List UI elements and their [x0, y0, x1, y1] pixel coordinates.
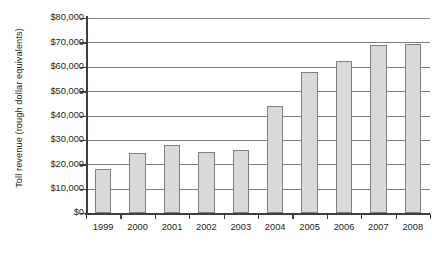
bar [129, 153, 146, 213]
plot-area [86, 18, 430, 213]
x-axis-tick-mark [86, 214, 87, 219]
bar [198, 152, 215, 213]
y-axis-line [86, 16, 88, 215]
x-axis-tick-mark [396, 214, 397, 219]
y-axis-tick-label: $70,000 [18, 38, 84, 47]
gridline [86, 18, 430, 19]
x-axis-tick-mark [189, 214, 190, 219]
y-axis-tick-label: $50,000 [18, 87, 84, 96]
x-axis-tick-mark [361, 214, 362, 219]
x-axis-tick-mark [155, 214, 156, 219]
bar [95, 169, 112, 213]
y-axis-tick-label: $0 [18, 208, 84, 217]
x-axis-tick-mark [327, 214, 328, 219]
x-axis-tick-mark [430, 214, 431, 219]
bar [301, 72, 318, 213]
x-axis-tick-mark [224, 214, 225, 219]
x-axis-tick-label: 2004 [258, 222, 292, 232]
x-axis-tick-label: 2008 [396, 222, 430, 232]
x-axis-tick-label: 2001 [155, 222, 189, 232]
bar [336, 61, 353, 213]
y-axis-tick-label: $40,000 [18, 111, 84, 120]
bar [233, 150, 250, 213]
x-axis-tick-mark [258, 214, 259, 219]
x-axis-tick-label: 2002 [189, 222, 223, 232]
x-axis-tick-label: 2003 [224, 222, 258, 232]
x-axis-tick-label: 2005 [292, 222, 326, 232]
bar [164, 145, 181, 213]
y-axis-tick-label: $30,000 [18, 135, 84, 144]
x-axis-tick-label: 1999 [86, 222, 120, 232]
bar [267, 106, 284, 213]
x-axis-tick-label: 2006 [327, 222, 361, 232]
y-axis-tick-labels: $0$10,000$20,000$30,000$40,000$50,000$60… [16, 0, 84, 255]
gridline [86, 42, 430, 43]
x-axis-tick-label: 2000 [120, 222, 154, 232]
x-axis-tick-label: 2007 [361, 222, 395, 232]
bar [370, 45, 387, 213]
bar [405, 44, 422, 213]
y-axis-tick-label: $80,000 [18, 13, 84, 22]
x-axis-tick-mark [292, 214, 293, 219]
y-axis-tick-label: $20,000 [18, 160, 84, 169]
x-axis-tick-mark [120, 214, 121, 219]
y-axis-tick-label: $60,000 [18, 62, 84, 71]
bar-chart-figure: Toll revenue (rough dollar equivalents) … [0, 0, 432, 255]
y-axis-tick-label: $10,000 [18, 184, 84, 193]
